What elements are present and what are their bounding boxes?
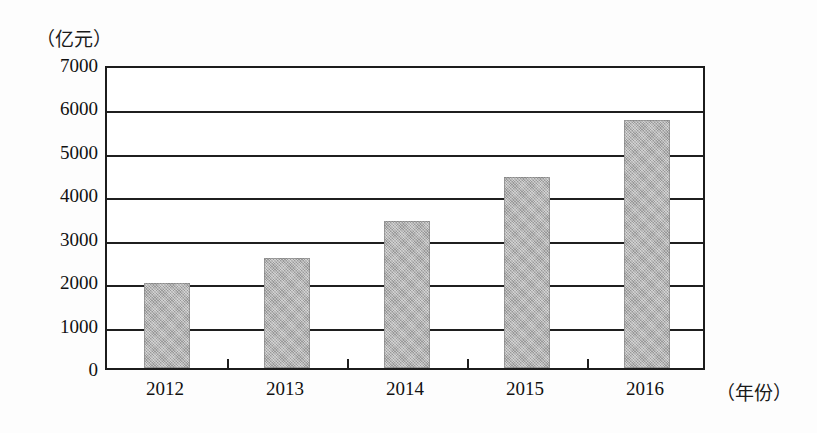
x-axis-tick-label-2014: 2014: [345, 378, 465, 400]
x-axis-tick: [227, 359, 229, 368]
bar-2015: [504, 177, 550, 368]
x-axis-tick-label-2016: 2016: [585, 378, 705, 400]
y-axis-tick-label: 5000: [32, 142, 98, 164]
x-axis-tick-label-2015: 2015: [465, 378, 585, 400]
x-axis-tick: [587, 359, 589, 368]
y-axis-tick-label: 6000: [32, 98, 98, 120]
plot-area: [105, 66, 705, 370]
bar-2014: [384, 221, 430, 368]
x-axis-unit-label: （年份）: [716, 378, 792, 405]
x-axis-tick: [467, 359, 469, 368]
y-axis-tick-label: 0: [32, 359, 98, 381]
y-axis-tick-label: 3000: [32, 229, 98, 251]
y-axis-tick-labels: 70006000500040003000200010000: [20, 66, 98, 370]
bar-2016: [624, 120, 670, 368]
bar-2012: [144, 283, 190, 368]
y-axis-tick-label: 2000: [32, 272, 98, 294]
y-axis-unit-label: （亿元）: [36, 24, 112, 51]
y-axis-tick-label: 7000: [32, 55, 98, 77]
x-axis-tick: [347, 359, 349, 368]
chart-page: （亿元） 70006000500040003000200010000 20122…: [0, 0, 817, 433]
bar-series: [107, 68, 703, 368]
x-axis-tick-label-2013: 2013: [225, 378, 345, 400]
y-axis-tick-label: 4000: [32, 185, 98, 207]
y-axis-tick-label: 1000: [32, 316, 98, 338]
x-axis-tick-label-2012: 2012: [105, 378, 225, 400]
bar-2013: [264, 258, 310, 368]
x-axis-tick-labels: 20122013201420152016: [105, 378, 705, 408]
